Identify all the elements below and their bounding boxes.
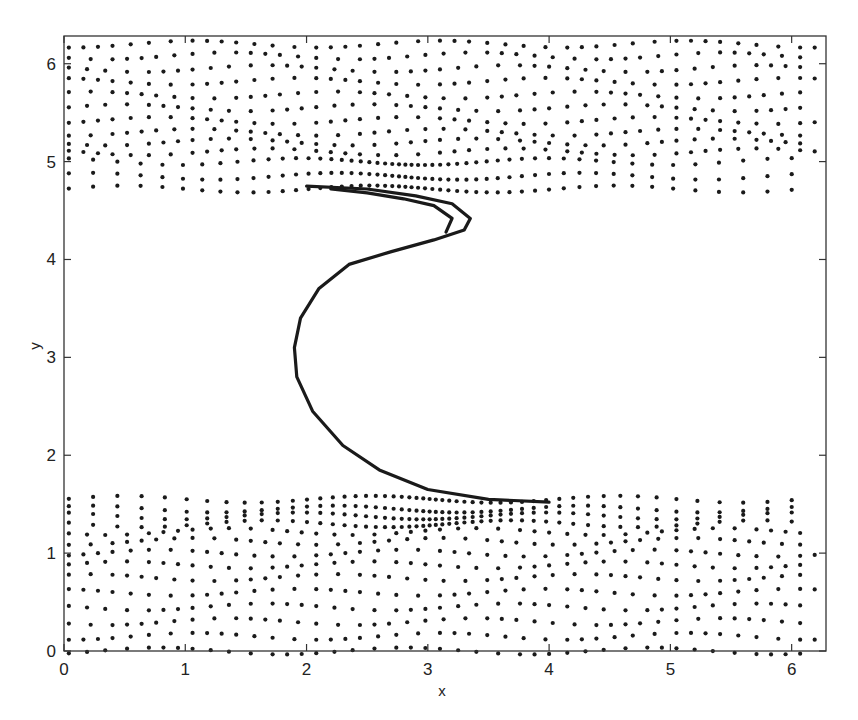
x-tick-label: 5 bbox=[666, 660, 675, 679]
x-tick-label: 3 bbox=[423, 660, 432, 679]
curve-line bbox=[294, 186, 549, 502]
y-tick-label: 0 bbox=[47, 642, 56, 661]
axis-ticks: 01234560123456 bbox=[47, 36, 826, 679]
scatter-chart: 01234560123456 x y bbox=[0, 0, 858, 720]
y-tick-label: 1 bbox=[47, 544, 56, 563]
x-tick-label: 0 bbox=[59, 660, 68, 679]
x-tick-label: 4 bbox=[544, 660, 553, 679]
x-tick-label: 1 bbox=[181, 660, 190, 679]
y-tick-label: 6 bbox=[47, 55, 56, 74]
y-tick-label: 2 bbox=[47, 446, 56, 465]
x-tick-label: 2 bbox=[302, 660, 311, 679]
y-tick-label: 4 bbox=[47, 250, 56, 269]
x-axis-label: x bbox=[438, 682, 446, 699]
curve-line bbox=[331, 189, 452, 232]
y-tick-label: 3 bbox=[47, 348, 56, 367]
curves-layer bbox=[294, 186, 549, 502]
dots-layer bbox=[67, 39, 817, 657]
x-tick-label: 6 bbox=[787, 660, 796, 679]
y-tick-label: 5 bbox=[47, 153, 56, 172]
y-axis-label: y bbox=[26, 342, 43, 350]
